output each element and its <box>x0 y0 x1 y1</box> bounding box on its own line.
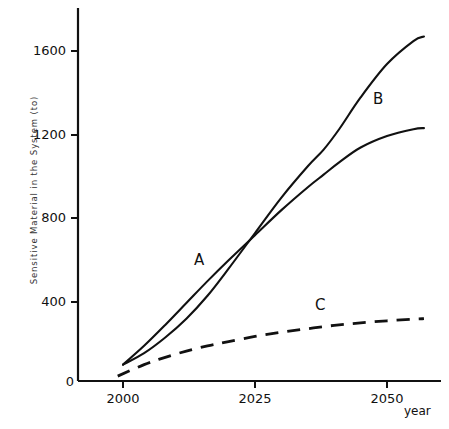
series-label-a: A <box>194 251 204 269</box>
y-tick-label-1600: 1600 <box>22 43 66 58</box>
x-axis-title: year <box>404 404 431 418</box>
x-tick-label-2025: 2025 <box>225 391 285 406</box>
chart-figure: 1600 1200 800 400 0 2000 2025 2050 Sensi… <box>0 0 449 429</box>
chart-plot-area <box>0 0 449 429</box>
y-tick-label-0: 0 <box>58 374 74 389</box>
series-line-a <box>123 128 424 365</box>
y-tick-label-400: 400 <box>22 294 66 309</box>
data-series-group <box>118 36 424 376</box>
y-axis-title: Sensitive Material in the System (to) <box>29 90 39 290</box>
series-label-b: B <box>373 90 383 108</box>
series-line-b <box>123 36 424 364</box>
series-label-c: C <box>315 296 325 314</box>
x-tick-label-2000: 2000 <box>93 391 153 406</box>
